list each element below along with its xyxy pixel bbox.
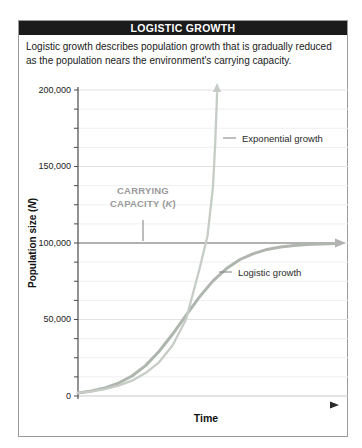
y-tick-label: 100,000	[38, 238, 71, 248]
exponential-growth-legend: Exponential growth	[223, 133, 323, 144]
y-axis-variable-N: N	[27, 201, 38, 208]
exponential-growth-label: Exponential growth	[242, 133, 323, 144]
y-tick-label: 200,000	[38, 85, 71, 95]
y-axis-title: Population size (N)	[27, 198, 38, 288]
growth-chart: 050,000100,000150,000200,000 Population …	[19, 21, 349, 438]
y-tick-label: 50,000	[43, 314, 71, 324]
logistic-growth-label: Logistic growth	[238, 267, 301, 278]
x-axis-title: Time	[194, 412, 218, 424]
carrying-capacity-variable-K: K	[166, 198, 173, 209]
logistic-growth-legend: Logistic growth	[219, 267, 301, 278]
carrying-capacity-label: CARRYING CAPACITY (K)	[110, 185, 176, 210]
legend-dash-icon	[219, 272, 232, 273]
legend-dash-icon	[223, 138, 236, 139]
y-tick-label: 150,000	[38, 161, 71, 171]
logistic-growth-card: LOGISTIC GROWTH Logistic growth describe…	[18, 20, 348, 437]
infographic-canvas: LOGISTIC GROWTH Logistic growth describe…	[0, 0, 362, 448]
carrying-capacity-line1: CARRYING	[110, 185, 176, 198]
carrying-capacity-line2: CAPACITY (K)	[110, 198, 176, 211]
y-tick-label: 0	[66, 391, 71, 401]
